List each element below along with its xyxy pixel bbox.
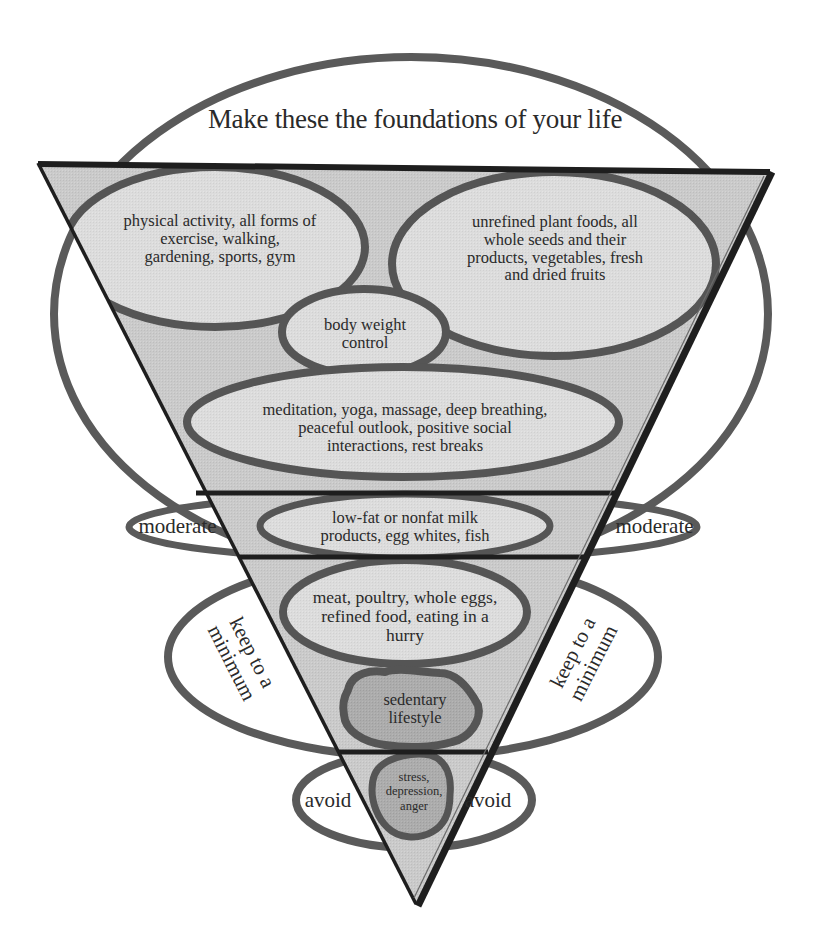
stress-depression-label: stress, depression, anger (370, 770, 458, 813)
sedentary-label: sedentary lifestyle (360, 691, 470, 727)
avoid-right-label: avoid (458, 789, 518, 812)
foundations-title: Make these the foundations of your life (205, 105, 625, 134)
stress-relief-label: meditation, yoga, massage, deep breathin… (235, 401, 575, 454)
low-fat-label: low-fat or nonfat milk products, egg whi… (290, 509, 520, 545)
moderate-right-label: moderate (602, 515, 707, 538)
physical-activity-label: physical activity, all forms of exercise… (110, 212, 330, 265)
meat-poultry-label: meat, poultry, whole eggs, refined food,… (305, 588, 505, 645)
body-weight-label: body weight control (310, 316, 420, 352)
plant-foods-label: unrefined plant foods, all whole seeds a… (450, 213, 660, 284)
avoid-left-label: avoid (298, 789, 358, 812)
moderate-left-label: moderate (125, 515, 230, 538)
